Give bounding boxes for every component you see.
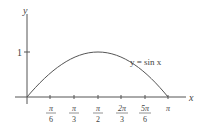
svg-text:2π: 2π [118,104,127,113]
svg-text:3: 3 [72,115,76,124]
y-tick-label-1: 1 [17,47,22,58]
curve-label: y = sin x [130,57,162,67]
svg-text:π: π [166,104,171,113]
svg-text:2: 2 [96,115,100,124]
x-tick-labels: π 6 π 3 π 2 2π 3 5π 6 π [46,104,171,124]
svg-text:π: π [72,104,77,113]
svg-text:3: 3 [120,115,124,124]
svg-text:5π: 5π [141,104,150,113]
svg-text:6: 6 [49,115,53,124]
svg-text:π: π [96,104,101,113]
x-axis-label: x [188,92,194,103]
y-axis-label: y [22,5,28,16]
svg-text:π: π [49,104,54,113]
sine-chart: y x 1 π 6 π 3 π 2 2π 3 5π 6 π y = sin x [0,0,206,129]
svg-text:6: 6 [143,115,147,124]
